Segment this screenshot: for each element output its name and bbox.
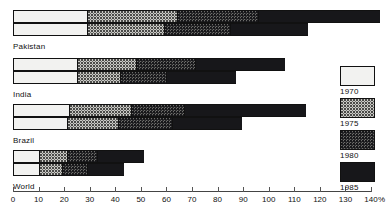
legend-label-1985: 1985 [340, 183, 359, 192]
category-label-world: World [13, 182, 35, 191]
legend-swatch-1975 [340, 98, 375, 118]
segment-world-lower-1985[interactable] [88, 164, 124, 175]
segment-pakistan-upper-1985[interactable] [259, 11, 379, 22]
x-tick-label-140: 140 [364, 195, 377, 204]
bar-india-lower[interactable] [13, 71, 236, 84]
segment-pakistan-lower-1975[interactable] [88, 24, 165, 35]
segment-brazil-upper-1970[interactable] [14, 105, 70, 116]
stacked-bar-chart: Pakistan India [0, 0, 387, 211]
x-tick-label-100: 100 [262, 195, 275, 204]
segment-world-upper-1970[interactable] [14, 151, 40, 162]
segment-world-lower-1980[interactable] [63, 164, 89, 175]
segment-pakistan-upper-1980[interactable] [178, 11, 260, 22]
x-tick-120 [320, 187, 321, 192]
x-tick-40 [115, 187, 116, 192]
segment-brazil-lower-1980[interactable] [119, 118, 173, 129]
legend-label-1970: 1970 [340, 87, 359, 96]
bar-group-india [13, 58, 373, 84]
x-tick-20 [64, 187, 65, 192]
bar-pakistan-lower[interactable] [13, 23, 308, 36]
x-tick-110 [294, 187, 295, 192]
segment-india-upper-1970[interactable] [14, 59, 78, 70]
segment-india-upper-1975[interactable] [78, 59, 137, 70]
x-tick-label-70: 70 [188, 195, 197, 204]
segment-india-lower-1985[interactable] [167, 72, 236, 83]
segment-brazil-lower-1975[interactable] [68, 118, 119, 129]
x-tick-100 [269, 187, 270, 192]
plot-area: Pakistan India [0, 0, 387, 211]
x-tick-label-80: 80 [213, 195, 222, 204]
bar-group-world [13, 150, 373, 176]
x-tick-label-0: 0 [11, 195, 15, 204]
x-tick-label-90: 90 [239, 195, 248, 204]
segment-world-lower-1970[interactable] [14, 164, 40, 175]
segment-brazil-lower-1985[interactable] [173, 118, 242, 129]
x-tick-label-40: 40 [111, 195, 120, 204]
bar-world-upper[interactable] [13, 150, 144, 163]
x-tick-label-130: 130 [339, 195, 352, 204]
x-tick-80 [218, 187, 219, 192]
category-label-brazil: Brazil [13, 136, 34, 145]
x-tick-30 [90, 187, 91, 192]
segment-india-lower-1970[interactable] [14, 72, 78, 83]
x-tick-label-10: 10 [34, 195, 43, 204]
x-tick-label-120: 120 [313, 195, 326, 204]
segment-brazil-upper-1975[interactable] [70, 105, 131, 116]
bar-india-upper[interactable] [13, 58, 285, 71]
x-tick-10 [39, 187, 40, 192]
legend-swatch-1985 [340, 162, 375, 182]
x-tick-50 [141, 187, 142, 192]
bar-world-lower[interactable] [13, 163, 124, 176]
segment-pakistan-upper-1975[interactable] [88, 11, 178, 22]
x-tick-label-50: 50 [136, 195, 145, 204]
category-label-india: India [13, 90, 31, 99]
bar-group-pakistan [13, 10, 373, 36]
segment-brazil-lower-1970[interactable] [14, 118, 68, 129]
segment-world-upper-1980[interactable] [68, 151, 99, 162]
bar-group-brazil [13, 104, 373, 130]
x-axis-unit-label: % [378, 195, 385, 204]
segment-world-upper-1975[interactable] [40, 151, 68, 162]
x-tick-140 [371, 187, 372, 192]
x-tick-label-60: 60 [162, 195, 171, 204]
bar-pakistan-upper[interactable] [13, 10, 380, 23]
x-tick-70 [192, 187, 193, 192]
segment-india-upper-1985[interactable] [196, 59, 286, 70]
x-tick-0 [13, 187, 14, 192]
legend-label-1980: 1980 [340, 151, 359, 160]
segment-pakistan-upper-1970[interactable] [14, 11, 88, 22]
segment-pakistan-lower-1980[interactable] [165, 24, 231, 35]
bar-brazil-upper[interactable] [13, 104, 306, 117]
segment-india-upper-1980[interactable] [137, 59, 196, 70]
legend-label-1975: 1975 [340, 119, 359, 128]
segment-pakistan-lower-1985[interactable] [231, 24, 308, 35]
x-tick-90 [243, 187, 244, 192]
segment-world-lower-1975[interactable] [40, 164, 63, 175]
segment-india-lower-1975[interactable] [78, 72, 121, 83]
x-tick-label-30: 30 [85, 195, 94, 204]
legend-swatch-1980 [340, 130, 375, 150]
segment-world-upper-1985[interactable] [98, 151, 144, 162]
category-label-pakistan: Pakistan [13, 42, 45, 51]
segment-brazil-upper-1980[interactable] [132, 105, 186, 116]
segment-pakistan-lower-1970[interactable] [14, 24, 88, 35]
x-tick-label-20: 20 [60, 195, 69, 204]
segment-brazil-upper-1985[interactable] [185, 105, 305, 116]
x-tick-label-110: 110 [288, 195, 301, 204]
bar-brazil-lower[interactable] [13, 117, 242, 130]
legend-swatch-1970 [340, 66, 375, 86]
x-tick-60 [166, 187, 167, 192]
segment-india-lower-1980[interactable] [121, 72, 167, 83]
